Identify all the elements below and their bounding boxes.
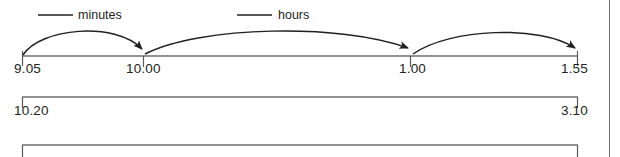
timeline-1-label-end: 1.55 [528,62,588,76]
timeline-2-label-start: 10.20 [14,104,49,118]
timeline-1-label-1-00: 1.00 [399,62,426,76]
timeline-3 [22,145,578,157]
right-border-rule [609,0,610,157]
arc-caption-hours: hours [278,9,309,22]
time-number-line-figure: 9.05 10.00 1.00 1.55 10.20 3.10 minutes … [0,0,620,157]
arc-hours-second [413,32,575,54]
timeline-1-label-start: 9.05 [14,62,41,76]
timeline-1 [22,15,578,67]
arc-minutes [23,31,142,55]
timeline-1-label-10-00: 10.00 [126,62,161,76]
arc-hours [145,31,408,54]
timeline-2 [22,97,578,108]
diagram-canvas [0,0,620,157]
arc-caption-minutes: minutes [78,9,122,22]
timeline-2-label-end: 3.10 [528,104,588,118]
